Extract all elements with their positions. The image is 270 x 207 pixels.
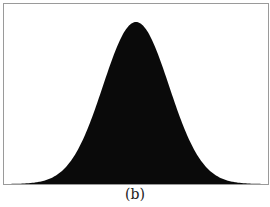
figure-caption: (b) [0, 186, 270, 202]
gaussian-plot [0, 0, 270, 207]
